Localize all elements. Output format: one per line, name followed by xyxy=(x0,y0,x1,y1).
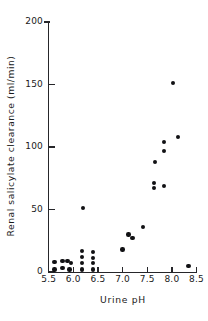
data-point xyxy=(141,225,145,229)
data-point xyxy=(152,186,156,190)
data-point xyxy=(80,249,84,253)
data-point xyxy=(80,261,84,265)
data-point xyxy=(80,267,84,271)
data-point xyxy=(162,140,166,144)
data-point xyxy=(52,267,56,271)
data-point xyxy=(81,206,85,210)
data-point xyxy=(120,247,124,251)
data-point xyxy=(69,261,73,265)
data-point xyxy=(91,256,95,260)
data-point xyxy=(130,236,134,240)
data-point xyxy=(162,149,166,153)
data-point xyxy=(91,250,95,254)
data-point xyxy=(162,184,166,188)
data-point xyxy=(152,181,156,185)
data-point xyxy=(171,81,175,85)
data-point xyxy=(153,160,157,164)
data-point xyxy=(91,261,95,265)
data-point xyxy=(91,267,95,271)
data-point xyxy=(60,266,64,270)
data-point xyxy=(60,259,64,263)
data-point xyxy=(176,135,180,139)
data-point xyxy=(186,264,190,268)
data-point-layer xyxy=(0,0,208,321)
data-point xyxy=(67,267,71,271)
scatter-plot-figure: Renal salicylate clearance (ml/min) Urin… xyxy=(0,0,208,321)
data-point xyxy=(80,255,84,259)
data-point xyxy=(52,260,56,264)
